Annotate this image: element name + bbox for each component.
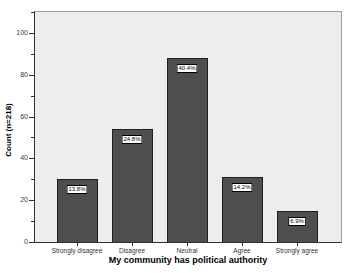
- bar-value-label: 40.4%: [176, 64, 197, 73]
- bar-value-label: 24.8%: [121, 135, 142, 144]
- y-tick-major: [29, 158, 34, 159]
- y-tick-label: 100: [4, 29, 28, 37]
- bar: 40.4%: [167, 58, 208, 242]
- y-tick-minor: [31, 12, 34, 13]
- x-category-label: Strongly agree: [257, 247, 337, 255]
- bar-value-label: 6.9%: [288, 217, 306, 226]
- y-tick-major: [29, 33, 34, 34]
- x-tick: [242, 243, 243, 246]
- bar: 14.2%: [222, 177, 263, 242]
- y-tick-major: [29, 242, 34, 243]
- bar-value-label: 14.2%: [231, 183, 252, 192]
- y-tick-major: [29, 200, 34, 201]
- bar: 6.9%: [277, 211, 318, 242]
- y-tick-major: [29, 75, 34, 76]
- bar-value-label: 13.8%: [66, 185, 87, 194]
- bar-chart-figure: Count (n=218) 13.8%24.8%40.4%14.2%6.9% 0…: [0, 0, 349, 273]
- y-tick-minor: [31, 221, 34, 222]
- y-tick-label: 80: [4, 71, 28, 79]
- x-tick: [297, 243, 298, 246]
- x-tick: [187, 243, 188, 246]
- x-tick: [132, 243, 133, 246]
- y-axis-title: Count (n=218): [4, 103, 13, 157]
- y-tick-minor: [31, 96, 34, 97]
- bar: 13.8%: [57, 179, 98, 242]
- y-tick-label: 60: [4, 113, 28, 121]
- plot-area: 13.8%24.8%40.4%14.2%6.9%: [34, 11, 342, 243]
- y-tick-minor: [31, 179, 34, 180]
- x-tick: [77, 243, 78, 246]
- x-axis-title: My community has political authority: [34, 255, 342, 265]
- y-tick-label: 20: [4, 196, 28, 204]
- bar: 24.8%: [112, 129, 153, 242]
- y-tick-minor: [31, 54, 34, 55]
- y-tick-major: [29, 117, 34, 118]
- y-tick-label: 0: [4, 238, 28, 246]
- y-tick-minor: [31, 137, 34, 138]
- y-tick-label: 40: [4, 154, 28, 162]
